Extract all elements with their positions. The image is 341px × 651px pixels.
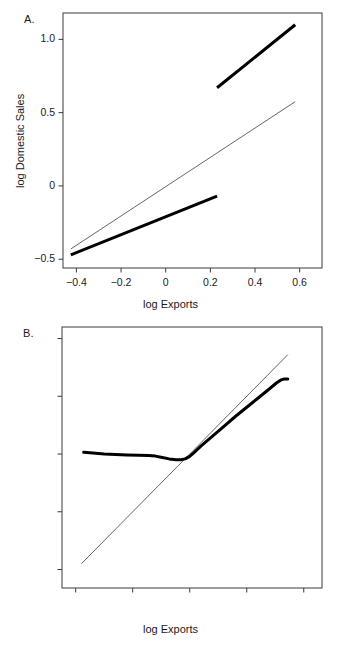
panel-a-x-axis-title: log Exports [0, 298, 341, 310]
data-line-thick [84, 379, 288, 460]
panel-a: A. log Domestic Sales log Exports 1.00.5… [0, 0, 341, 325]
x-tick-label: 0.6 [275, 276, 325, 288]
panel-b-letter: B. [23, 327, 34, 339]
data-line-thick [217, 25, 295, 88]
x-tick-label: 0 [141, 276, 191, 288]
panel-a-tick-marks [59, 39, 300, 272]
plot-frame [62, 327, 322, 588]
data-line-thick [71, 196, 217, 255]
y-tick-label: 1.0 [40, 32, 55, 44]
panel-a-y-axis-title: log Domestic Sales [14, 93, 26, 187]
x-tick-label: 0.4 [230, 276, 280, 288]
x-tick-label: −0.2 [96, 276, 146, 288]
panel-a-letter: A. [24, 13, 35, 25]
y-tick-label: 0 [49, 179, 55, 191]
panel-b-data-series [81, 355, 287, 564]
panel-b-tick-marks [58, 339, 304, 593]
y-tick-label: 0.5 [40, 106, 55, 118]
y-tick-label: −0.5 [34, 252, 55, 264]
panel-a-data-series [71, 25, 295, 255]
panel-b-axes-frame [62, 327, 322, 588]
figure-panels-a-b: A. log Domestic Sales log Exports 1.00.5… [0, 0, 341, 651]
data-line-thin [71, 102, 295, 249]
panel-a-axes-frame [63, 13, 322, 268]
panel-b-plot [0, 326, 341, 651]
x-tick-label: −0.4 [51, 276, 101, 288]
panel-b-x-axis-title: log Exports [0, 623, 341, 635]
panel-b: B. log Domestic Sales log Exports 1050−5… [0, 326, 341, 651]
plot-frame [63, 13, 322, 268]
x-tick-label: 0.2 [185, 276, 235, 288]
